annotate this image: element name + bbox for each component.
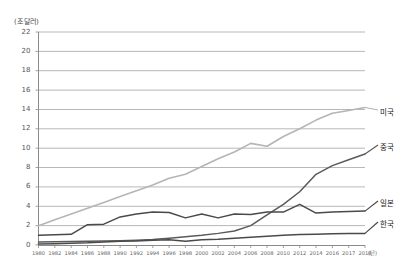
x-tick-label: 2016 xyxy=(323,250,341,256)
series-label-korea: 한국 xyxy=(380,218,394,229)
x-tick-label: 2017 xyxy=(340,250,358,256)
gridlines-group xyxy=(39,32,366,226)
y-tick-label: 8 xyxy=(15,163,31,171)
x-tick-label: 1996 xyxy=(160,250,178,256)
series-leader-line-2 xyxy=(365,201,378,211)
series-leader-line-3 xyxy=(365,222,378,233)
y-tick-label: 20 xyxy=(15,47,31,55)
series-label-us: 미국 xyxy=(380,106,394,117)
y-tick-label: 18 xyxy=(15,66,31,74)
series-leader-line-0 xyxy=(365,108,378,111)
x-tick-label: 1998 xyxy=(176,250,194,256)
x-tick-label: 2006 xyxy=(242,250,260,256)
x-axis-unit-label: (년) xyxy=(368,249,377,256)
x-tick-label: 2014 xyxy=(307,250,325,256)
y-tick-label: 22 xyxy=(15,28,31,36)
x-tick-marks-group xyxy=(39,245,366,248)
y-tick-label: 2 xyxy=(15,221,31,229)
y-tick-label: 12 xyxy=(15,124,31,132)
x-tick-label: 2004 xyxy=(225,250,243,256)
x-tick-label: 2000 xyxy=(193,250,211,256)
x-tick-label: 1988 xyxy=(95,250,113,256)
x-tick-label: 1994 xyxy=(144,250,162,256)
line-chart: (조 달러) 0246810121416182022 1980198219841… xyxy=(0,0,411,267)
series-line-0 xyxy=(39,108,366,226)
series-lines-group xyxy=(39,108,379,245)
y-tick-label: 16 xyxy=(15,86,31,94)
x-tick-label: 1982 xyxy=(46,250,64,256)
x-tick-label: 1992 xyxy=(127,250,145,256)
y-tick-label: 10 xyxy=(15,144,31,152)
series-label-china: 중국 xyxy=(380,141,394,152)
chart-plot-area xyxy=(0,0,411,267)
x-tick-label: 1980 xyxy=(30,250,48,256)
x-tick-label: 1984 xyxy=(62,250,80,256)
x-tick-label: 2008 xyxy=(258,250,276,256)
x-tick-label: 2012 xyxy=(291,250,309,256)
x-tick-label: 2002 xyxy=(209,250,227,256)
y-tick-label: 14 xyxy=(15,105,31,113)
y-tick-label: 0 xyxy=(15,241,31,249)
x-tick-label: 2010 xyxy=(274,250,292,256)
series-leader-line-1 xyxy=(365,145,378,154)
x-tick-label: 1986 xyxy=(78,250,96,256)
series-label-japan: 일본 xyxy=(380,197,394,208)
y-tick-label: 6 xyxy=(15,182,31,190)
y-tick-label: 4 xyxy=(15,202,31,210)
x-tick-label: 1990 xyxy=(111,250,129,256)
